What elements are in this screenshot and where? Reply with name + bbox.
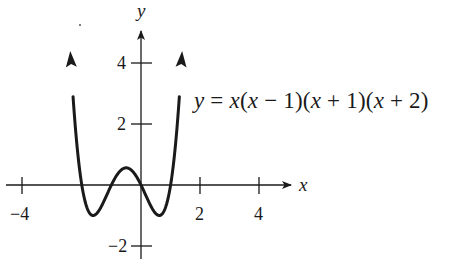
- speck-artifact: [79, 24, 81, 26]
- eq-m3: + 2): [384, 88, 429, 113]
- y-axis-label: y: [135, 0, 146, 21]
- eq-x2: x: [248, 88, 258, 113]
- eq-m1: − 1)(: [258, 88, 311, 113]
- function-graph: −4 2 4 4 2 −2 x y: [0, 0, 455, 259]
- eq-p1: (: [240, 88, 248, 113]
- y-tick-label-neg2: −2: [108, 236, 127, 256]
- curve-left-arrow-icon: [66, 51, 77, 67]
- x-tick-label-4: 4: [254, 204, 263, 224]
- x-tick-label-neg4: −4: [10, 204, 29, 224]
- eq-x4: x: [374, 88, 384, 113]
- y-tick-label-4: 4: [117, 53, 126, 73]
- eq-m2: + 1)(: [321, 88, 374, 113]
- eq-x1: x: [230, 88, 240, 113]
- y-tick-label-2: 2: [117, 114, 126, 134]
- x-tick-label-2: 2: [195, 204, 204, 224]
- curve-right-arrow-icon: [176, 51, 187, 67]
- function-curve: [73, 97, 179, 216]
- eq-y: y: [194, 88, 204, 113]
- function-equation: y = x(x − 1)(x + 1)(x + 2): [194, 88, 429, 114]
- x-axis-label: x: [298, 174, 308, 195]
- eq-equals: =: [204, 88, 229, 113]
- eq-x3: x: [311, 88, 321, 113]
